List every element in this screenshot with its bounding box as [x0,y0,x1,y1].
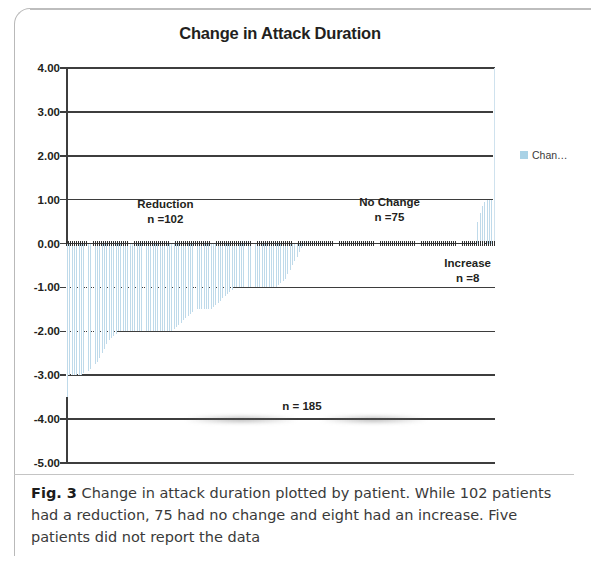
plot-area: Reduction n =102 No Change n =75 Increas… [66,68,495,463]
annotation-increase-count: n =8 [444,271,491,287]
annotation-increase-title: Increase [444,256,491,272]
annotation-reduction: Reduction n =102 [137,197,193,228]
legend-series-label: Chan… [532,149,568,161]
y-axis-tick-label: 4.00 [14,62,60,74]
y-axis-tick-label: -3.00 [14,369,60,381]
y-axis-tick-label: -4.00 [14,413,60,425]
y-axis-tick-label: 3.00 [14,106,60,118]
figure-caption-text: Change in attack duration plotted by pat… [31,485,551,545]
y-axis-tick-labels: 4.003.002.001.000.00-1.00-2.00-3.00-4.00… [12,68,60,463]
annotation-reduction-title: Reduction [137,197,193,213]
annotation-increase: Increase n =8 [444,256,491,287]
figure-caption: Fig. 3 Change in attack duration plotted… [31,482,553,548]
y-axis-tick-label: -1.00 [14,281,60,293]
y-axis-tick-label: 0.00 [14,238,60,250]
y-axis-tick-label: -2.00 [14,325,60,337]
chart-region: Change in Attack Duration 4.003.002.001.… [0,12,591,472]
annotation-no-change: No Change n =75 [359,195,420,226]
annotation-no-change-title: No Change [359,195,420,211]
annotation-no-change-count: n =75 [359,210,420,226]
figure-number: Fig. 3 [31,485,77,501]
zero-line-tick-comb [66,241,495,246]
caption-divider [14,474,574,475]
bars-layer [66,68,495,463]
legend-color-swatch [520,151,528,159]
panel-top-edge [30,8,591,10]
figure-card: Change in Attack Duration 4.003.002.001.… [0,0,591,563]
plot-right-edge [494,68,495,245]
y-axis-tick-label: 2.00 [14,150,60,162]
y-axis-tick-label: 1.00 [14,194,60,206]
chart-legend: Chan… [520,149,568,161]
annotation-total-n: n = 185 [282,399,321,415]
chart-title: Change in Attack Duration [60,24,500,43]
annotation-reduction-count: n =102 [137,212,193,228]
y-axis-tick-label: -5.00 [14,457,60,469]
